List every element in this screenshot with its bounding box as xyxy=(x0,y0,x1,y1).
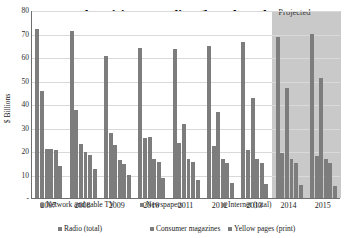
legend-label: Internet (total) xyxy=(228,201,272,209)
y-axis-tick-label: 70 xyxy=(0,31,29,39)
legend-swatch-icon xyxy=(150,227,154,231)
bar xyxy=(280,153,284,198)
legend-item[interactable]: Network and cable TV xyxy=(40,201,114,209)
bar xyxy=(319,78,323,198)
bar xyxy=(49,149,53,198)
bar xyxy=(276,37,280,198)
bar xyxy=(285,88,289,198)
legend-swatch-icon xyxy=(40,203,44,207)
y-axis-tick-label: 50 xyxy=(0,78,29,86)
legend-label: Yellow pages (print) xyxy=(234,225,295,233)
gridline xyxy=(32,11,340,12)
bar xyxy=(182,124,186,198)
bar xyxy=(328,163,332,198)
bar xyxy=(161,178,165,198)
gridline xyxy=(32,35,340,36)
bar xyxy=(157,162,161,198)
legend-label: Network and cable TV xyxy=(46,201,114,209)
bar xyxy=(310,34,314,199)
bar xyxy=(109,133,113,198)
legend-swatch-icon xyxy=(222,203,226,207)
bar xyxy=(299,185,303,198)
y-axis-label-wrapper: $ Billions xyxy=(0,78,12,148)
legend-swatch-icon xyxy=(58,227,62,231)
gridline xyxy=(32,105,340,106)
bar xyxy=(138,48,142,198)
bar xyxy=(79,144,83,198)
y-axis-tick-label: 30 xyxy=(0,125,29,133)
plot-area: Projected xyxy=(31,11,340,199)
chart-container: US Advertising Spending (by selected med… xyxy=(0,0,344,238)
bar xyxy=(216,112,220,198)
bar xyxy=(84,152,88,198)
legend-item[interactable]: Internet (total) xyxy=(222,201,272,209)
bar xyxy=(290,159,294,198)
bar xyxy=(177,143,181,198)
bar xyxy=(40,91,44,198)
bar xyxy=(173,49,177,198)
bar xyxy=(148,137,152,198)
bar xyxy=(74,110,78,198)
legend-label: Radio (total) xyxy=(64,225,102,233)
bar xyxy=(315,156,319,198)
bar xyxy=(294,163,298,198)
bar xyxy=(246,150,250,198)
bar xyxy=(225,163,229,198)
y-axis-tick-label: 60 xyxy=(0,54,29,62)
bar xyxy=(324,159,328,198)
legend-item[interactable]: Yellow pages (print) xyxy=(228,225,295,233)
bar xyxy=(122,164,126,198)
bar xyxy=(187,159,191,198)
gridline xyxy=(32,58,340,59)
y-axis-tick-label: 20 xyxy=(0,148,29,156)
legend-label: Consumer magazines xyxy=(156,225,220,233)
bar xyxy=(152,159,156,198)
bar xyxy=(93,169,97,198)
bar xyxy=(45,149,49,198)
bar xyxy=(264,184,268,198)
bar xyxy=(35,29,39,198)
bar xyxy=(251,98,255,198)
legend-row: Network and cable TVNewspapersInternet (… xyxy=(0,201,344,211)
bar xyxy=(255,159,259,198)
bar xyxy=(212,146,216,198)
bar xyxy=(143,138,147,198)
bar xyxy=(260,163,264,198)
bar xyxy=(70,31,74,198)
bar xyxy=(58,166,62,198)
y-axis-tick-label: 80 xyxy=(0,7,29,15)
projected-annotation-label: Projected xyxy=(278,7,310,17)
bar xyxy=(88,155,92,198)
bar xyxy=(196,180,200,198)
bar xyxy=(127,175,131,199)
legend-swatch-icon xyxy=(228,227,232,231)
y-axis-tick-label: 40 xyxy=(0,101,29,109)
bar xyxy=(118,160,122,198)
legend-item[interactable]: Consumer magazines xyxy=(150,225,220,233)
bar xyxy=(221,159,225,198)
bar xyxy=(241,42,245,198)
bar xyxy=(191,162,195,198)
bar xyxy=(207,46,211,198)
legend-row: Radio (total)Consumer magazinesYellow pa… xyxy=(0,225,344,235)
legend-swatch-icon xyxy=(140,203,144,207)
legend-item[interactable]: Newspapers xyxy=(140,201,183,209)
bar xyxy=(333,186,337,198)
bar xyxy=(54,150,58,198)
bar xyxy=(113,145,117,198)
legend-item[interactable]: Radio (total) xyxy=(58,225,102,233)
gridline xyxy=(32,82,340,83)
bar xyxy=(104,56,108,198)
bar xyxy=(230,183,234,198)
legend-label: Newspapers xyxy=(146,201,183,209)
y-axis-tick-label: 10 xyxy=(0,172,29,180)
